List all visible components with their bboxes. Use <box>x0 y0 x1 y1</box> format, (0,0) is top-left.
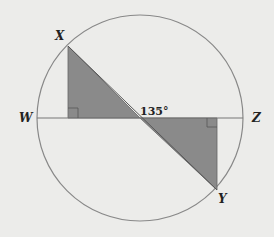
label-z: Z <box>251 111 262 125</box>
circle-diagram: X Y W Z 135° <box>0 0 274 237</box>
label-w: W <box>19 111 34 125</box>
geometry-diagram: X Y W Z 135° <box>0 0 274 237</box>
label-x: X <box>54 29 65 43</box>
angle-label: 135° <box>140 105 168 118</box>
label-y: Y <box>218 192 228 206</box>
